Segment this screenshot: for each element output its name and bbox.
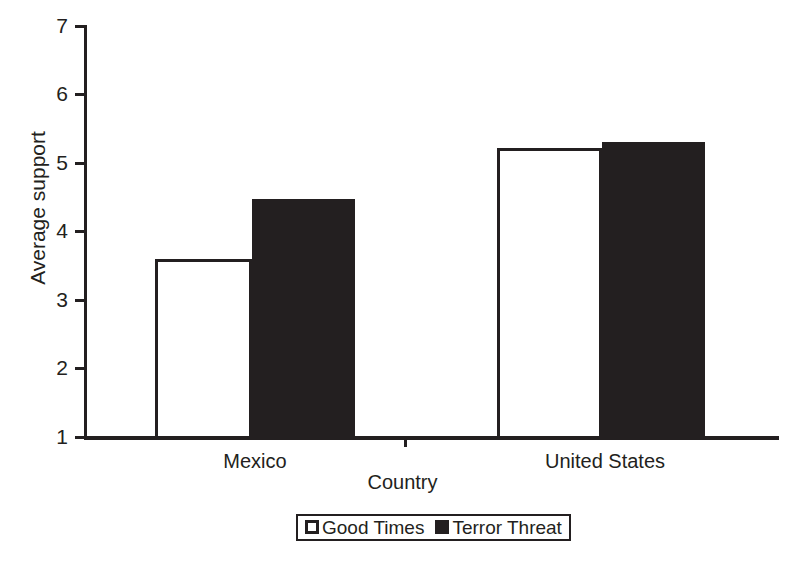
x-axis-title: Country [0, 471, 805, 494]
x-axis-label-united-states: United States [505, 450, 705, 473]
bar-mexico-terror-threat [252, 199, 355, 437]
x-axis-label-mexico: Mexico [160, 450, 350, 473]
legend-swatch-open-icon [305, 520, 319, 534]
x-axis-line [84, 436, 779, 440]
y-axis-tick-4 [75, 230, 87, 233]
y-axis-tick-5 [75, 162, 87, 165]
y-axis-tick-label-1: 1 [32, 426, 68, 447]
legend-entry-terror-threat: Terror Threat [435, 518, 561, 537]
y-axis-title: Average support [26, 108, 50, 308]
y-axis-tick-6 [75, 93, 87, 96]
y-axis-tick-label-2: 2 [32, 357, 68, 378]
legend-label-good-times: Good Times [322, 518, 424, 537]
y-axis-tick-label-6: 6 [32, 83, 68, 104]
y-axis-tick-7 [75, 25, 87, 28]
legend-label-terror-threat: Terror Threat [452, 518, 561, 537]
bar-chart: 7 6 5 4 3 2 1 Average support Mexico Uni… [0, 0, 805, 574]
y-axis-tick-label-7: 7 [32, 15, 68, 36]
bar-mexico-good-times [155, 259, 252, 440]
legend-swatch-solid-icon [435, 520, 449, 534]
chart-legend: Good Times Terror Threat [296, 514, 571, 541]
bar-united-states-terror-threat [602, 142, 705, 437]
x-axis-tick-center [404, 436, 407, 447]
bar-united-states-good-times [497, 148, 602, 440]
legend-entry-good-times: Good Times [305, 518, 424, 537]
y-axis-tick-3 [75, 299, 87, 302]
y-axis-tick-2 [75, 367, 87, 370]
